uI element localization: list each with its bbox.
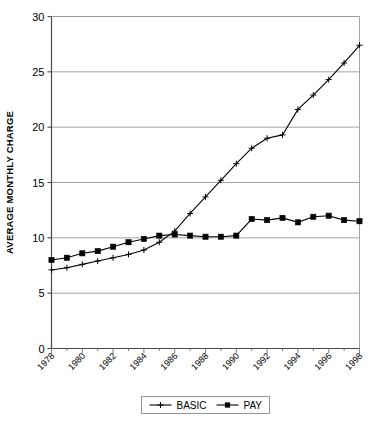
x-tick-label-1986: 1986 — [158, 351, 179, 372]
y-tick-label-25: 25 — [32, 66, 44, 78]
data-point-pay-1983 — [126, 240, 131, 245]
y-axis-title-group: AVERAGE MONTHLY CHARGE — [4, 111, 15, 254]
x-tick-label-1980: 1980 — [66, 351, 87, 372]
y-tick-label-15: 15 — [32, 177, 44, 189]
x-tick-label-1990: 1990 — [220, 351, 241, 372]
data-point-pay-1990 — [234, 233, 239, 238]
x-tick-label-1982: 1982 — [97, 351, 118, 372]
data-point-pay-1985 — [157, 233, 162, 238]
x-tick-label-1992: 1992 — [251, 351, 272, 372]
data-point-pay-1995 — [311, 214, 316, 219]
data-point-pay-1980 — [80, 251, 85, 256]
data-point-pay-1998 — [357, 219, 362, 224]
x-tick-label-group-1982: 1982 — [97, 351, 118, 372]
data-point-pay-1988 — [203, 234, 208, 239]
x-tick-label-group-1992: 1992 — [251, 351, 272, 372]
x-tick-label-1984: 1984 — [128, 351, 149, 372]
y-tick-label-5: 5 — [38, 287, 44, 299]
data-point-pay-1984 — [141, 236, 146, 241]
data-point-pay-1996 — [326, 213, 331, 218]
line-chart: 0510152025301978198019821984198619881990… — [0, 0, 374, 424]
x-tick-label-1994: 1994 — [282, 351, 303, 372]
data-point-pay-1993 — [280, 215, 285, 220]
data-point-pay-1987 — [188, 233, 193, 238]
data-point-pay-1994 — [295, 220, 300, 225]
legend-marker-square-pay — [225, 402, 230, 407]
x-tick-label-group-1980: 1980 — [66, 351, 87, 372]
legend-label-pay: PAY — [244, 400, 263, 411]
data-point-pay-1979 — [64, 255, 69, 260]
data-point-pay-1978 — [49, 257, 54, 262]
x-tick-label-group-1996: 1996 — [312, 351, 333, 372]
chart-container: 0510152025301978198019821984198619881990… — [0, 0, 374, 424]
x-tick-label-group-1984: 1984 — [128, 351, 149, 372]
x-tick-label-1996: 1996 — [312, 351, 333, 372]
x-tick-label-group-1986: 1986 — [158, 351, 179, 372]
x-tick-label-group-1988: 1988 — [189, 351, 210, 372]
x-tick-label-1988: 1988 — [189, 351, 210, 372]
data-point-pay-1981 — [95, 249, 100, 254]
y-axis-title: AVERAGE MONTHLY CHARGE — [4, 111, 15, 254]
y-tick-label-20: 20 — [32, 121, 44, 133]
data-point-pay-1997 — [342, 218, 347, 223]
y-tick-label-10: 10 — [32, 232, 44, 244]
x-tick-label-group-1990: 1990 — [220, 351, 241, 372]
x-tick-label-1998: 1998 — [343, 351, 364, 372]
x-tick-label-group-1998: 1998 — [343, 351, 364, 372]
y-tick-label-30: 30 — [32, 11, 44, 23]
data-point-pay-1982 — [111, 244, 116, 249]
y-tick-label-0: 0 — [38, 343, 44, 355]
data-point-pay-1991 — [249, 216, 254, 221]
data-point-pay-1992 — [265, 218, 270, 223]
data-point-pay-1989 — [218, 234, 223, 239]
legend-label-basic: BASIC — [177, 400, 207, 411]
data-point-pay-1986 — [172, 232, 177, 237]
x-tick-label-group-1994: 1994 — [282, 351, 303, 372]
